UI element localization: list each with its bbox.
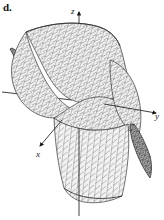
surface-shadow-fold-right	[130, 124, 152, 178]
surface-lower-skirt	[54, 118, 129, 203]
figure-container: d.	[0, 0, 164, 220]
surface-mesh	[10, 23, 152, 203]
y-axis-label: y	[154, 111, 159, 121]
surface-plot-svg: z y x	[0, 0, 164, 220]
x-axis-label: x	[35, 149, 40, 159]
z-axis-label: z	[70, 6, 75, 16]
